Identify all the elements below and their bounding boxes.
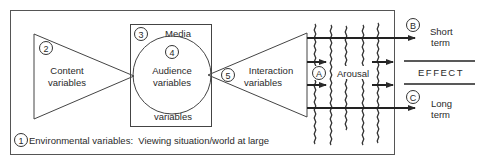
svg-text:C: C	[410, 93, 417, 103]
media-variables-label: variables	[154, 111, 192, 122]
svg-text:B: B	[410, 21, 416, 31]
media-effects-diagram: 2 Content variables 3 Media variables 4 …	[0, 0, 486, 163]
long-term-label-line2: term	[431, 109, 450, 120]
svg-text:3: 3	[138, 30, 143, 40]
media-label: Media	[165, 28, 192, 39]
interaction-label-line1: Interaction	[249, 65, 293, 76]
short-term-letter-badge: B	[407, 19, 420, 32]
interaction-number-badge: 5	[222, 69, 235, 82]
effect-label: EFFECT	[418, 67, 464, 78]
short-term-label-line2: term	[431, 37, 450, 48]
media-number-badge: 3	[135, 28, 148, 41]
arousal-label: Arousal	[337, 68, 369, 79]
audience-number-badge: 4	[166, 46, 179, 59]
interaction-label-line2: variables	[244, 77, 282, 88]
long-term-label-line1: Long	[431, 98, 452, 109]
audience-label-line1: Audience	[152, 65, 192, 76]
svg-text:5: 5	[225, 71, 230, 81]
short-term-label-line1: Short	[430, 26, 453, 37]
svg-text:1: 1	[18, 136, 23, 146]
environment-number-badge: 1	[15, 134, 28, 147]
svg-text:4: 4	[169, 48, 174, 58]
content-number-badge: 2	[40, 42, 53, 55]
environment-label: Environmental variables: Viewing situati…	[29, 135, 269, 146]
content-label-line2: variables	[48, 77, 86, 88]
svg-text:2: 2	[43, 44, 48, 54]
svg-text:A: A	[316, 69, 322, 79]
content-label-line1: Content	[50, 65, 84, 76]
audience-label-line2: variables	[153, 77, 191, 88]
long-term-letter-badge: C	[407, 91, 420, 104]
arousal-letter-badge: A	[313, 66, 326, 80]
